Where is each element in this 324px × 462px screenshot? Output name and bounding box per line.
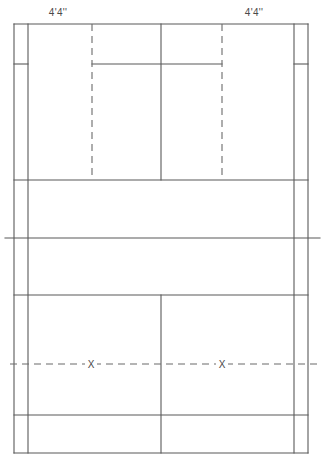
position-mark-right: X	[219, 359, 226, 370]
right-width-label: 4'4''	[245, 8, 263, 18]
badminton-court-diagram: XX 4'4''4'4''	[0, 0, 324, 462]
left-width-label: 4'4''	[49, 8, 67, 18]
dashed-lines-group	[10, 24, 322, 364]
position-mark-left: X	[88, 359, 95, 370]
solid-lines-group	[5, 24, 320, 453]
court-line-drawing: XX	[0, 0, 324, 462]
